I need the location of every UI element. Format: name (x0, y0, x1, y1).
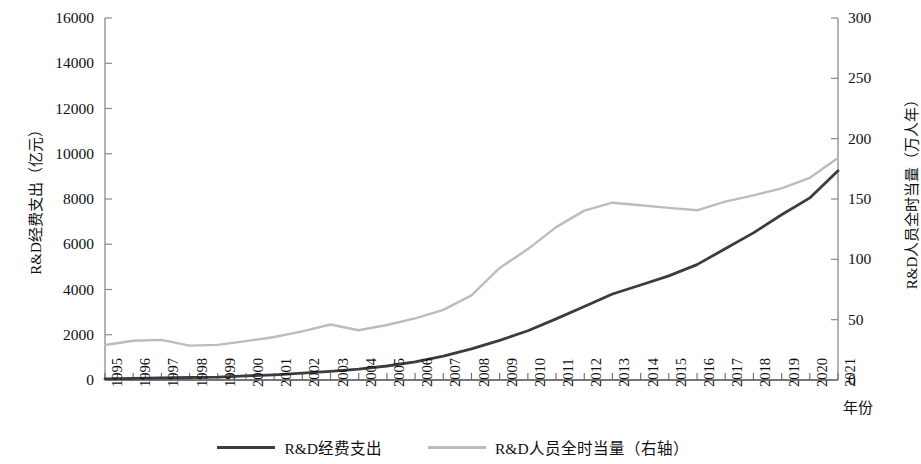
x-tick-label: 1999 (223, 358, 238, 387)
x-tick-label: 2017 (730, 358, 745, 387)
axis-ticks (105, 18, 838, 380)
left-tick-label: 8000 (6, 191, 94, 207)
x-tick-label: 2014 (646, 358, 661, 387)
chart-legend: R&D经费支出R&D人员全时当量（右轴） (0, 436, 906, 458)
right-tick-label: 250 (848, 70, 908, 86)
legend-item[interactable]: R&D经费支出 (217, 436, 382, 458)
left-tick-label: 6000 (6, 236, 94, 252)
x-tick-label: 2000 (251, 358, 266, 387)
series-line-rd-personnel (105, 158, 838, 346)
x-tick-label: 2012 (589, 358, 604, 387)
axis-lines (105, 18, 838, 380)
data-series-group (105, 158, 838, 379)
right-tick-label: 150 (848, 191, 908, 207)
left-tick-label: 4000 (6, 282, 94, 298)
x-tick-label: 2006 (420, 358, 435, 387)
x-tick-label: 2004 (364, 358, 379, 387)
x-tick-label: 2007 (448, 358, 463, 387)
x-tick-label: 1996 (138, 358, 153, 387)
right-tick-label: 100 (848, 251, 908, 267)
x-tick-label: 1998 (195, 358, 210, 387)
x-tick-label: 1997 (166, 358, 181, 387)
legend-label: R&D人员全时当量（右轴） (495, 436, 689, 458)
right-tick-label: 200 (848, 131, 908, 147)
x-tick-label: 2015 (674, 358, 689, 387)
x-tick-label: 2002 (307, 358, 322, 387)
legend-line-swatch-icon (428, 446, 486, 449)
x-tick-label: 1995 (110, 358, 125, 387)
left-tick-label: 10000 (6, 146, 94, 162)
x-tick-label: 2009 (505, 358, 520, 387)
left-tick-label: 16000 (6, 10, 94, 26)
legend-label: R&D经费支出 (284, 436, 382, 458)
x-tick-label: 2020 (815, 358, 830, 387)
x-tick-label: 2018 (758, 358, 773, 387)
x-tick-label: 2016 (702, 358, 717, 387)
x-axis-title: 年份 (843, 396, 873, 417)
right-tick-label: 300 (848, 10, 908, 26)
x-tick-label: 2008 (477, 358, 492, 387)
left-tick-label: 2000 (6, 327, 94, 343)
x-tick-label: 2013 (617, 358, 632, 387)
left-tick-label: 12000 (6, 101, 94, 117)
x-tick-label: 2001 (279, 358, 294, 387)
x-tick-label: 2005 (392, 358, 407, 387)
left-tick-label: 0 (6, 372, 94, 388)
x-tick-label: 2011 (561, 359, 576, 387)
x-tick-label: 2019 (787, 358, 802, 387)
x-tick-label: 2003 (336, 358, 351, 387)
legend-line-swatch-icon (217, 446, 275, 449)
legend-item[interactable]: R&D人员全时当量（右轴） (428, 436, 689, 458)
left-tick-label: 14000 (6, 55, 94, 71)
right-tick-label: 50 (848, 312, 908, 328)
x-tick-label: 2021 (843, 358, 858, 387)
x-tick-label: 2010 (533, 358, 548, 387)
